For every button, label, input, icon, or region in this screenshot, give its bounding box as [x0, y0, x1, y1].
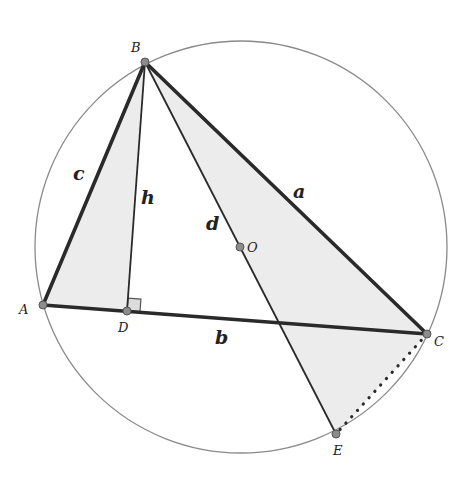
point-label-o: O [247, 240, 258, 255]
point-c [423, 330, 431, 338]
geometry-diagram: ABCDEO chdab [0, 0, 475, 485]
point-label-d: D [117, 320, 129, 335]
segment-label-c: c [73, 162, 85, 184]
point-b [141, 58, 149, 66]
point-label-e: E [332, 443, 343, 458]
segment-label-d: d [206, 212, 219, 234]
shaded-triangle-bce [145, 62, 427, 434]
point-label-a: A [18, 302, 28, 317]
segment-label-h: h [141, 186, 155, 208]
shaded-regions [43, 62, 427, 434]
point-a [39, 301, 47, 309]
point-d [123, 307, 131, 315]
point-e [332, 430, 340, 438]
segment-label-a: a [293, 180, 305, 202]
point-label-c: C [434, 334, 444, 349]
point-o [236, 243, 244, 251]
diagram-canvas: ABCDEO chdab [0, 0, 475, 485]
point-label-b: B [130, 40, 141, 55]
segment-label-b: b [215, 326, 228, 348]
